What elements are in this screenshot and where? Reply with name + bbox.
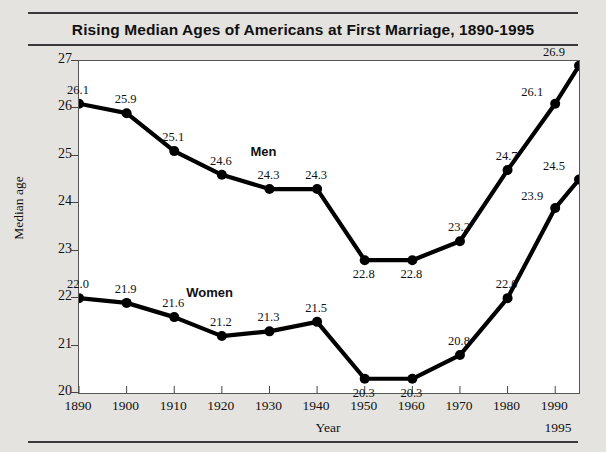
data-point-label: 26.1 [67,83,89,98]
y-tick-mark [71,202,78,203]
data-point-marker [79,99,84,109]
series-label-women: Women [186,285,233,300]
data-point-label: 22.0 [67,277,89,292]
data-point-label: 26.1 [521,85,543,100]
data-point-label: 22.0 [496,277,518,292]
data-point-label: 20.3 [400,386,422,401]
data-point-marker [312,317,322,327]
x-axis-title: Year [78,420,578,436]
data-point-label: 24.3 [305,168,327,183]
chart-title: Rising Median Ages of Americans at First… [28,16,578,43]
plot-area [78,60,580,394]
data-point-marker [407,255,417,265]
data-point-marker [407,374,417,384]
data-point-label: 22.8 [400,267,422,282]
data-point-label: 25.1 [162,130,184,145]
data-point-marker [122,298,132,308]
data-point-marker [455,236,465,246]
data-point-label: 24.5 [543,159,565,174]
data-point-label: 23.2 [448,220,470,235]
y-tick-mark [71,297,78,298]
data-point-label: 21.2 [210,315,232,330]
data-point-label: 21.5 [305,301,327,316]
data-point-marker [360,374,370,384]
y-tick-label: 24 [38,193,72,209]
y-tick-mark [71,107,78,108]
data-point-marker [264,184,274,194]
bottom-rule [28,441,578,443]
series-label-men: Men [250,144,276,159]
data-point-marker [264,326,274,336]
data-point-marker [503,293,513,303]
data-point-label: 22.8 [353,267,375,282]
data-point-label: 24.6 [210,154,232,169]
data-point-marker [455,350,465,360]
data-point-marker [217,331,227,341]
data-point-label: 23.9 [521,189,543,204]
data-point-marker [550,99,560,109]
data-point-marker [550,203,560,213]
chart-figure: Rising Median Ages of Americans at First… [0,0,606,452]
y-axis-tick-labels: 2726252423222120 [30,0,72,452]
y-tick-label: 23 [38,241,72,257]
y-tick-label: 26 [38,98,72,114]
data-point-label: 24.3 [258,168,280,183]
y-tick-label: 25 [38,146,72,162]
data-point-marker [79,293,84,303]
y-tick-label: 27 [38,51,72,67]
data-point-label: 20.3 [353,386,375,401]
title-rule-bottom [28,44,578,46]
y-tick-label: 20 [38,383,72,399]
data-point-marker [312,184,322,194]
plot-svg [79,61,579,393]
y-tick-mark [71,60,78,61]
data-point-marker [503,165,513,175]
data-point-label: 25.9 [115,92,137,107]
data-point-marker [169,146,179,156]
data-point-marker [360,255,370,265]
data-point-label: 21.6 [162,296,184,311]
data-point-label: 21.9 [115,282,137,297]
y-tick-mark [71,155,78,156]
y-axis-title: Median age [11,153,27,263]
y-tick-mark [71,345,78,346]
data-point-marker [217,170,227,180]
y-tick-mark [71,392,78,393]
data-point-label: 26.9 [543,45,565,60]
y-tick-label: 21 [38,336,72,352]
x-axis-end-tick-label: 1995 [528,420,588,436]
title-rule-top [28,12,578,14]
data-point-label: 20.8 [448,334,470,349]
data-point-label: 21.3 [258,310,280,325]
y-tick-mark [71,250,78,251]
x-tick-label: 1990 [524,398,584,414]
data-point-label: 24.7 [496,149,518,164]
data-point-marker [122,108,132,118]
data-point-marker [169,312,179,322]
